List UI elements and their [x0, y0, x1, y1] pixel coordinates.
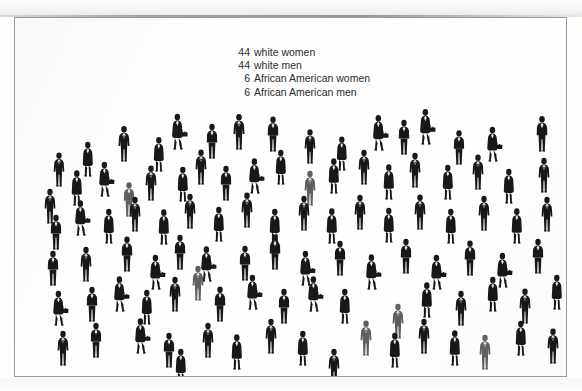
person-icon-man	[539, 196, 555, 232]
person-icon-man	[462, 240, 478, 276]
legend-label: African American women	[250, 72, 370, 84]
legend-line: 6African American men	[234, 86, 434, 99]
person-icon-woman	[73, 200, 91, 236]
legend-label: white women	[250, 46, 315, 58]
person-icon-man	[407, 152, 423, 188]
person-icon-man-grey	[358, 320, 374, 356]
person-icon-woman	[419, 282, 435, 318]
legend-count: 44	[234, 59, 250, 72]
person-icon-man	[530, 238, 546, 274]
person-icon-woman	[364, 254, 382, 290]
person-icon-woman	[133, 318, 151, 354]
person-icon-man	[182, 193, 198, 229]
person-icon-man	[143, 165, 159, 201]
person-icon-woman	[485, 276, 501, 312]
legend-line: 44white women	[234, 46, 434, 59]
person-icon-woman	[447, 330, 463, 366]
person-icon-man	[332, 240, 348, 276]
legend-count: 44	[234, 46, 250, 59]
person-icon-man	[116, 125, 132, 162]
person-icon-man	[470, 154, 486, 190]
person-icon-man-grey	[477, 334, 493, 370]
person-icon-woman	[513, 320, 529, 356]
person-icon-woman	[549, 274, 565, 310]
legend-line: 44white men	[234, 59, 434, 72]
person-icon-woman	[501, 168, 517, 204]
person-icon-woman	[381, 164, 397, 200]
person-icon-woman	[324, 208, 340, 244]
person-icon-man	[78, 246, 94, 282]
person-icon-man	[193, 149, 209, 185]
person-icon-woman	[51, 290, 69, 326]
person-icon-man	[352, 194, 368, 230]
person-icon-woman	[440, 164, 456, 200]
person-icon-man	[239, 192, 255, 228]
person-icon-man	[545, 328, 561, 364]
person-icon-woman	[211, 206, 227, 242]
person-icon-woman	[485, 126, 503, 162]
scan-artifact-top	[0, 0, 582, 17]
person-icon-woman	[156, 209, 172, 245]
person-icon-woman	[326, 158, 342, 194]
person-icon-woman	[337, 288, 353, 324]
person-icon-woman	[273, 149, 289, 185]
person-icon-woman	[148, 254, 166, 290]
person-icon-man	[265, 116, 281, 152]
person-icon-man	[200, 322, 216, 358]
person-icon-woman	[306, 276, 324, 312]
scan-artifact-bottom	[0, 378, 582, 391]
person-icon-woman	[170, 113, 189, 150]
person-icon-man	[127, 196, 143, 232]
legend-label: white men	[250, 59, 302, 71]
person-icon-man	[45, 250, 61, 286]
person-icon-woman	[443, 208, 459, 244]
person-icon-woman	[381, 207, 397, 243]
person-icon-man	[84, 286, 100, 322]
person-icon-man	[88, 322, 104, 358]
person-icon-man	[51, 152, 67, 187]
person-icon-woman	[173, 348, 189, 377]
person-icon-man	[356, 149, 372, 185]
person-icon-man	[119, 236, 135, 272]
person-icon-man	[267, 234, 283, 270]
legend-label: African American men	[250, 86, 357, 98]
person-icon-man	[302, 128, 318, 164]
person-icon-woman	[295, 330, 311, 366]
person-icon-man	[167, 276, 183, 312]
person-icon-woman	[229, 334, 245, 370]
person-icon-woman	[418, 108, 436, 145]
person-icon-woman	[509, 208, 525, 244]
person-icon-man	[55, 330, 71, 366]
person-icon-man	[517, 288, 533, 324]
scanned-page: 44white women 44white men 6African Ameri…	[0, 0, 582, 391]
person-icon-man	[451, 129, 467, 165]
legend-count: 6	[234, 86, 250, 99]
person-icon-man	[172, 234, 188, 270]
person-icon-man	[326, 348, 342, 377]
person-icon-woman	[387, 332, 403, 368]
person-icon-man	[534, 115, 550, 152]
person-icon-man	[476, 195, 492, 231]
legend-count: 6	[234, 72, 250, 85]
legend-caption: 44white women 44white men 6African Ameri…	[234, 46, 434, 99]
person-icon-man	[231, 113, 247, 150]
person-icon-man-grey	[190, 265, 206, 301]
legend-line: 6African American women	[234, 72, 434, 85]
person-icon-woman	[97, 161, 115, 197]
person-icon-woman	[245, 274, 263, 310]
person-icon-man	[453, 290, 469, 326]
person-icon-woman	[101, 208, 117, 244]
person-icon-man	[212, 286, 228, 322]
person-icon-man	[416, 318, 432, 354]
person-icon-woman	[112, 276, 130, 312]
person-icon-man	[396, 119, 412, 155]
person-icon-man	[218, 165, 234, 201]
person-icon-man	[536, 157, 552, 193]
person-icon-woman	[247, 158, 265, 194]
person-icon-man	[263, 318, 279, 354]
person-icon-man	[398, 238, 414, 274]
person-icon-woman	[371, 114, 389, 151]
person-icon-man	[48, 214, 64, 250]
infographic-frame: 44white women 44white men 6African Ameri…	[14, 17, 567, 377]
person-icon-man	[412, 194, 428, 230]
